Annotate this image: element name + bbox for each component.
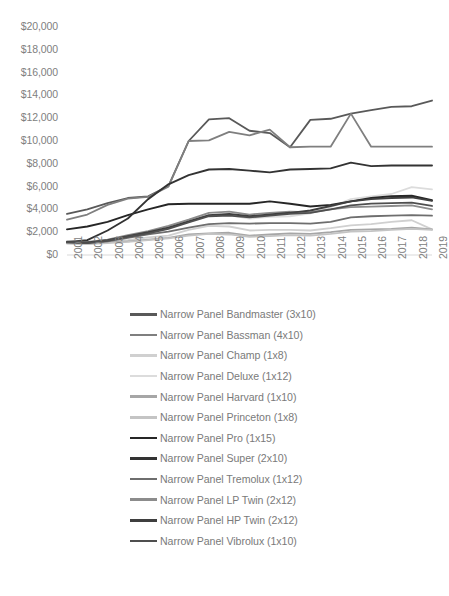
x-axis-tick-label: 2005 [153, 236, 165, 259]
y-axis-tick-label: $14,000 [21, 88, 58, 100]
y-axis-tick-label: $4,000 [26, 202, 58, 214]
x-axis-tick-label: 2016 [376, 236, 388, 259]
legend-color-swatch [130, 375, 157, 378]
x-axis-tick-label: 2015 [356, 236, 368, 259]
x-axis-tick-label: 2012 [295, 236, 307, 259]
legend-item-label: Narrow Panel Champ (1x8) [160, 349, 287, 361]
x-axis-tick-label: 2017 [396, 236, 408, 259]
x-axis-tick-label: 2006 [173, 236, 185, 259]
legend-item-label: Narrow Panel HP Twin (2x12) [160, 514, 298, 526]
legend-color-swatch [130, 457, 157, 460]
legend-item-label: Narrow Panel Super (2x10) [160, 452, 287, 464]
legend-item[interactable]: Narrow Panel Bandmaster (3x10) [0, 304, 443, 325]
legend-color-swatch [130, 313, 157, 316]
y-axis-tick-label: $20,000 [21, 20, 58, 32]
legend-item-label: Narrow Panel Harvard (1x10) [160, 391, 296, 403]
x-axis-tick-label: 2003 [113, 236, 125, 259]
y-axis-tick-label: $6,000 [26, 180, 58, 192]
legend-item-label: Narrow Panel Princeton (1x8) [160, 411, 298, 423]
x-axis-tick-label: 2008 [214, 236, 226, 259]
legend-item[interactable]: Narrow Panel Vibrolux (1x10) [0, 531, 443, 552]
legend-item[interactable]: Narrow Panel Tremolux (1x12) [0, 469, 443, 490]
legend-item[interactable]: Narrow Panel Bassman (4x10) [0, 325, 443, 346]
legend-item[interactable]: Narrow Panel Pro (1x15) [0, 428, 443, 449]
legend-item[interactable]: Narrow Panel HP Twin (2x12) [0, 510, 443, 531]
legend-item[interactable]: Narrow Panel Deluxe (1x12) [0, 366, 443, 387]
x-axis-tick-label: 2018 [417, 236, 429, 259]
x-axis-tick-label: 2014 [336, 236, 348, 259]
legend-item-label: Narrow Panel Tremolux (1x12) [160, 473, 302, 485]
legend-color-swatch [130, 498, 157, 501]
legend-item-label: Narrow Panel Bassman (4x10) [160, 329, 303, 341]
y-axis-tick-label: $8,000 [26, 157, 58, 169]
y-axis-tick-label: $12,000 [21, 111, 58, 123]
legend-item-label: Narrow Panel Deluxe (1x12) [160, 370, 292, 382]
x-axis-tick-label: 2001 [72, 236, 84, 259]
legend-color-swatch [130, 478, 157, 481]
legend-item-label: Narrow Panel LP Twin (2x12) [160, 494, 296, 506]
x-axis-tick-label: 2013 [315, 236, 327, 259]
legend-color-swatch [130, 334, 157, 337]
x-axis-tick-label: 2009 [234, 236, 246, 259]
legend-item-label: Narrow Panel Pro (1x15) [160, 432, 275, 444]
legend-color-swatch [130, 437, 157, 440]
legend-color-swatch [130, 395, 157, 398]
plot-area: $0$2,000$4,000$6,000$8,000$10,000$12,000… [0, 0, 443, 300]
y-axis-tick-label: $2,000 [26, 225, 58, 237]
legend-color-swatch [130, 354, 157, 357]
legend-color-swatch [130, 416, 157, 419]
legend-item[interactable]: Narrow Panel Princeton (1x8) [0, 407, 443, 428]
x-axis-tick-label: 2019 [437, 236, 449, 259]
legend-item[interactable]: Narrow Panel LP Twin (2x12) [0, 489, 443, 510]
x-axis-tick-label: 2010 [255, 236, 267, 259]
legend-item[interactable]: Narrow Panel Champ (1x8) [0, 345, 443, 366]
legend-item-label: Narrow Panel Bandmaster (3x10) [160, 308, 316, 320]
y-axis-tick-label: $18,000 [21, 43, 58, 55]
legend-item[interactable]: Narrow Panel Super (2x10) [0, 448, 443, 469]
x-axis-tick-label: 2002 [92, 236, 104, 259]
legend-color-swatch [130, 540, 157, 543]
y-axis-tick-label: $0 [47, 248, 58, 260]
x-axis-tick-label: 2007 [194, 236, 206, 259]
legend-color-swatch [130, 519, 157, 522]
x-axis-tick-label: 2011 [275, 237, 287, 259]
legend-item[interactable]: Narrow Panel Harvard (1x10) [0, 386, 443, 407]
y-axis-tick-label: $16,000 [21, 66, 58, 78]
chart-legend: Narrow Panel Bandmaster (3x10)Narrow Pan… [0, 300, 443, 551]
legend-item-label: Narrow Panel Vibrolux (1x10) [160, 535, 297, 547]
y-axis-tick-label: $10,000 [21, 134, 58, 146]
x-axis-tick-label: 2004 [133, 236, 145, 259]
